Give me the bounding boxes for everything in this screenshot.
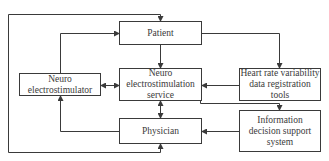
- node-hrv-registration-tools: Heart rate variability data registration…: [239, 68, 321, 101]
- node-physician: Physician: [119, 118, 202, 144]
- edge-physician-to-stimulator: [61, 96, 120, 132]
- node-patient-label: Patient: [147, 28, 173, 39]
- node-physician-label: Physician: [142, 126, 179, 137]
- node-neuro-electrostimulator-label: Neuro electrostimulator: [25, 74, 95, 96]
- node-hrv-registration-tools-label: Heart rate variability data registration…: [240, 68, 320, 101]
- node-neuro-electrostimulation-service-label: Neuro electrostimulation service: [122, 68, 200, 101]
- edge-stimulator-to-patient: [61, 34, 120, 74]
- edge-patient-to-hrv: [202, 34, 280, 69]
- node-neuro-electrostimulation-service: Neuro electrostimulation service: [119, 68, 202, 101]
- node-neuro-electrostimulator: Neuro electrostimulator: [19, 73, 101, 96]
- node-information-decision-support-system-label: Information decision support system: [244, 115, 316, 148]
- edge-service-to-info: [201, 101, 280, 110]
- diagram-canvas: Patient Neuro electrostimulator Neuro el…: [0, 0, 329, 161]
- node-patient: Patient: [119, 21, 202, 45]
- node-information-decision-support-system: Information decision support system: [239, 110, 321, 152]
- edge-outer-to-physician: [9, 144, 161, 153]
